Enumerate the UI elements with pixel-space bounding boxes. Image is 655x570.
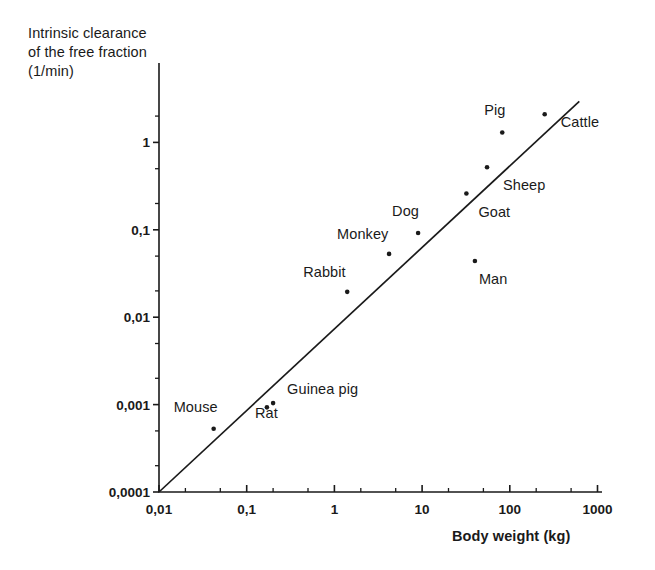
data-point-label: Monkey	[337, 226, 388, 242]
data-point-label: Mouse	[174, 399, 218, 415]
y-tick-label: 0,0001	[109, 485, 150, 500]
axes	[153, 63, 602, 492]
data-point-label: Rabbit	[303, 264, 346, 280]
data-point-label: Pig	[484, 102, 505, 118]
data-point	[500, 130, 505, 135]
data-point-label: Dog	[392, 203, 419, 219]
data-point	[485, 165, 490, 170]
data-point-label: Rat	[255, 405, 278, 421]
data-point-label: Sheep	[503, 177, 545, 193]
data-point	[542, 112, 547, 117]
y-tick-label: 0,001	[116, 397, 150, 412]
data-point	[387, 252, 392, 257]
data-point-label: Goat	[478, 204, 510, 220]
y-tick-label: 0,01	[124, 310, 150, 325]
data-point-label: Cattle	[561, 114, 599, 130]
chart-figure: Intrinsic clearance of the free fraction…	[0, 0, 655, 570]
x-tick-label: 1000	[582, 502, 612, 517]
x-tick-label: 100	[499, 502, 522, 517]
data-point	[473, 259, 478, 264]
data-point	[345, 290, 350, 295]
trend-line	[159, 101, 579, 492]
x-tick-label: 0,01	[146, 502, 172, 517]
data-point	[211, 426, 216, 431]
y-tick-label: 1	[142, 135, 150, 150]
x-tick-label: 10	[415, 502, 430, 517]
y-tick-label: 0,1	[131, 222, 150, 237]
data-point	[416, 231, 421, 236]
x-tick-label: 0,1	[237, 502, 256, 517]
x-tick-label: 1	[331, 502, 339, 517]
data-point-label: Guinea pig	[287, 381, 358, 397]
data-point	[464, 191, 469, 196]
plot-area	[0, 0, 655, 570]
data-point-label: Man	[479, 271, 508, 287]
